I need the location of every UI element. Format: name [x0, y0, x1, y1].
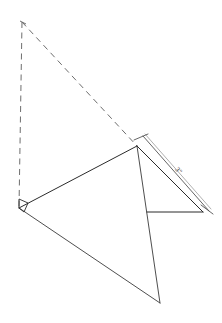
dimension-label: 3" [173, 165, 183, 175]
hidden-lines-group [19, 21, 137, 208]
central-vertical-edge [137, 146, 160, 303]
dashed-diagonal-edge [22, 22, 137, 146]
dimension-annotation-group: 3" [134, 134, 213, 214]
dimension-tick-end [201, 205, 213, 214]
upper-left-edge [19, 146, 137, 208]
dashed-vertical-edge [19, 22, 22, 208]
geometric-figure-svg: 3" [0, 0, 222, 323]
lower-left-edge [19, 208, 160, 303]
figure-canvas: 3" [0, 0, 222, 323]
right-hypotenuse-edge [137, 146, 203, 212]
